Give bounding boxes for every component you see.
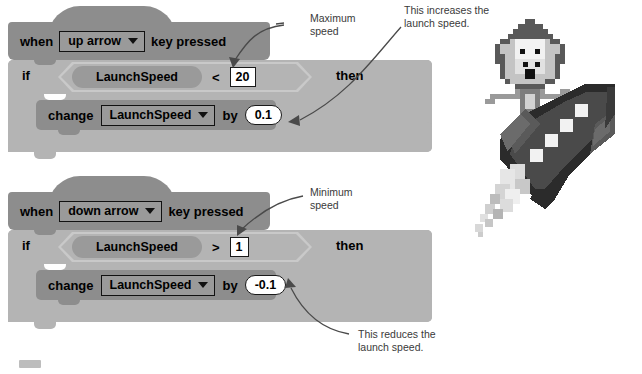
then-label-1: then — [336, 68, 363, 83]
if-label-2: if — [22, 238, 30, 253]
operator-symbol-2: > — [212, 240, 220, 255]
key-dropdown-2[interactable]: down arrow — [59, 201, 162, 222]
hat-row-1: when up arrow key pressed — [8, 22, 270, 60]
change-verb-1: change — [48, 108, 94, 123]
variable-reporter-1[interactable]: LaunchSpeed — [72, 66, 202, 88]
key-pressed-word-1: key pressed — [151, 34, 226, 49]
chevron-down-icon — [198, 282, 208, 288]
boolean-contents-2: LaunchSpeed > 1 — [58, 232, 312, 262]
hat-row-2: when down arrow key pressed — [8, 192, 270, 230]
key-dropdown-label-1: up arrow — [68, 34, 121, 48]
threshold-input-1[interactable]: 20 — [230, 67, 256, 87]
change-amount-input-2[interactable]: -0.1 — [245, 275, 287, 295]
diagram-canvas: if then LaunchSpeed < 20 change LaunchSp… — [0, 0, 642, 374]
change-verb-2: change — [48, 278, 94, 293]
variable-dropdown-1[interactable]: LaunchSpeed — [101, 105, 216, 126]
variable-dropdown-label-2: LaunchSpeed — [110, 278, 192, 292]
chevron-down-icon — [198, 112, 208, 118]
when-key-pressed-hat-2[interactable]: when down arrow key pressed — [8, 192, 270, 230]
boolean-contents-1: LaunchSpeed < 20 — [58, 62, 312, 92]
by-word-2: by — [222, 278, 237, 293]
threshold-input-2[interactable]: 1 — [230, 237, 249, 257]
variable-dropdown-label-1: LaunchSpeed — [110, 108, 192, 122]
when-word-2: when — [20, 204, 53, 219]
chevron-down-icon — [128, 38, 138, 44]
annotation-reduces-speed: This reduces the launch speed. — [358, 328, 436, 353]
if-label-1: if — [22, 68, 30, 83]
monkey-rocket-svg — [470, 14, 630, 264]
when-key-pressed-hat-1[interactable]: when up arrow key pressed — [8, 22, 270, 60]
annotation-minimum-speed: Minimum speed — [310, 186, 353, 211]
key-pressed-word-2: key pressed — [168, 204, 243, 219]
variable-dropdown-2[interactable]: LaunchSpeed — [101, 275, 216, 296]
by-word-1: by — [222, 108, 237, 123]
monkey-rocket-illustration — [470, 14, 630, 264]
change-amount-input-1[interactable]: 0.1 — [245, 105, 282, 125]
when-word-1: when — [20, 34, 53, 49]
page-corner-tab — [19, 360, 41, 368]
change-variable-block-1[interactable]: change LaunchSpeed by 0.1 — [36, 100, 276, 130]
chevron-down-icon — [145, 208, 155, 214]
change-variable-block-2[interactable]: change LaunchSpeed by -0.1 — [36, 270, 276, 300]
operator-symbol-1: < — [212, 70, 220, 85]
if-then-foot-notch — [34, 322, 56, 329]
if-then-foot-notch — [34, 152, 56, 159]
key-dropdown-1[interactable]: up arrow — [59, 31, 145, 52]
key-dropdown-label-2: down arrow — [68, 204, 138, 218]
annotation-maximum-speed: Maximum speed — [310, 12, 356, 37]
then-label-2: then — [336, 238, 363, 253]
variable-reporter-2[interactable]: LaunchSpeed — [72, 236, 202, 258]
